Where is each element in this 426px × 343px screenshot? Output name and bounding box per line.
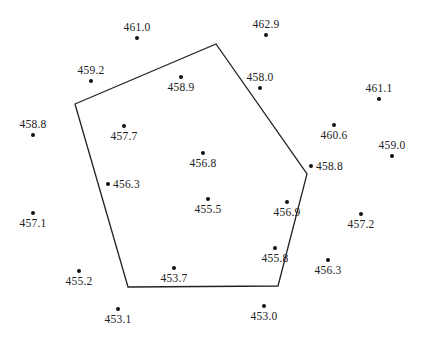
point-marker-icon	[264, 33, 268, 37]
elevation-label: 456.9	[274, 206, 301, 218]
point-marker-icon	[122, 124, 126, 128]
point-marker-icon	[135, 36, 139, 40]
elevation-label: 458.8	[316, 160, 343, 172]
elevation-label: 462.9	[253, 18, 280, 30]
elevation-label: 460.6	[321, 129, 348, 141]
elevation-label: 455.2	[66, 275, 93, 287]
elevation-label: 458.8	[20, 118, 47, 130]
point-marker-icon	[332, 123, 336, 127]
elevation-label: 457.2	[348, 218, 375, 230]
point-marker-icon	[206, 197, 210, 201]
point-marker-icon	[179, 75, 183, 79]
point-marker-icon	[77, 269, 81, 273]
elevation-label: 455.8	[262, 252, 289, 264]
point-marker-icon	[262, 304, 266, 308]
point-marker-icon	[201, 151, 205, 155]
point-marker-icon	[172, 266, 176, 270]
point-marker-icon	[390, 154, 394, 158]
point-marker-icon	[377, 97, 381, 101]
point-marker-icon	[116, 307, 120, 311]
point-marker-icon	[31, 211, 35, 215]
point-marker-icon	[309, 164, 313, 168]
boundary-polygon	[0, 0, 426, 343]
elevation-label: 458.0	[247, 71, 274, 83]
elevation-label: 461.0	[124, 21, 151, 33]
point-marker-icon	[258, 86, 262, 90]
elevation-label: 459.2	[78, 64, 105, 76]
elevation-diagram: 461.0462.9459.2458.9458.0461.1458.8457.7…	[0, 0, 426, 343]
point-marker-icon	[106, 182, 110, 186]
elevation-label: 459.0	[379, 139, 406, 151]
elevation-label: 453.7	[161, 272, 188, 284]
elevation-label: 457.7	[111, 130, 138, 142]
elevation-label: 458.9	[168, 81, 195, 93]
elevation-label: 457.1	[20, 217, 47, 229]
point-marker-icon	[273, 246, 277, 250]
elevation-label: 456.8	[190, 157, 217, 169]
elevation-label: 453.1	[105, 313, 132, 325]
point-marker-icon	[359, 212, 363, 216]
point-marker-icon	[89, 79, 93, 83]
elevation-label: 455.5	[195, 203, 222, 215]
elevation-label: 456.3	[113, 178, 140, 190]
elevation-label: 461.1	[366, 82, 393, 94]
elevation-label: 453.0	[251, 310, 278, 322]
point-marker-icon	[326, 258, 330, 262]
point-marker-icon	[31, 133, 35, 137]
elevation-label: 456.3	[315, 264, 342, 276]
point-marker-icon	[285, 200, 289, 204]
